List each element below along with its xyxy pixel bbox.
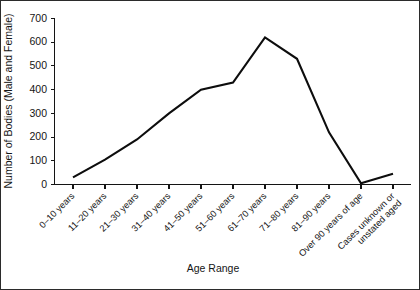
y-tick-label: 700	[29, 12, 47, 24]
y-tick-label: 600	[29, 35, 47, 47]
y-tick-labels: 0100200300400500600700	[29, 12, 47, 190]
data-series-line	[73, 37, 393, 183]
x-axis-group: 0–10 years11–20 years21–30 years31–40 ye…	[37, 185, 411, 259]
y-axis-group: 0100200300400500600700	[29, 12, 54, 190]
y-tick-label: 200	[29, 130, 47, 142]
x-tick-labels: 0–10 years11–20 years21–30 years31–40 ye…	[37, 191, 403, 259]
y-tick-label: 300	[29, 107, 47, 119]
x-axis-title: Age Range	[187, 262, 240, 274]
x-tick-label: Cases unknown orunstated aged	[336, 191, 404, 259]
x-tick-marks	[73, 185, 393, 189]
y-tick-marks	[51, 19, 55, 185]
chart-figure: 0100200300400500600700 0–10 years11–20 y…	[0, 0, 420, 290]
line-chart: 0100200300400500600700 0–10 years11–20 y…	[1, 1, 420, 290]
y-tick-label: 400	[29, 83, 47, 95]
y-tick-label: 100	[29, 154, 47, 166]
y-axis-title: Number of Bodies (Male and Female)	[2, 13, 14, 188]
y-tick-label: 0	[41, 178, 47, 190]
x-tick-label-line: Cases unknown or	[336, 191, 397, 252]
y-tick-label: 500	[29, 59, 47, 71]
